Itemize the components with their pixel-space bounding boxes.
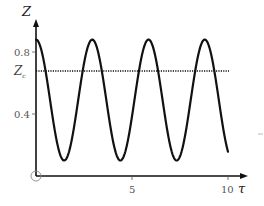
oscillation-chart: 0.8 0.4 5 10 Z τ Zc [0, 0, 264, 206]
zc-label: Zc [13, 64, 26, 79]
x-axis-label: τ [238, 181, 246, 196]
oscillation-curve [36, 40, 228, 161]
x-axis-arrow [240, 173, 248, 179]
y-tick-label-0.8: 0.8 [14, 47, 30, 58]
x-tick-label-10: 10 [221, 184, 234, 195]
y-tick-label-0.4: 0.4 [14, 109, 30, 120]
y-axis-label: Z [21, 4, 32, 19]
y-axis-arrow [33, 19, 39, 27]
x-tick-label-5: 5 [129, 184, 135, 195]
zc-label-sub: c [22, 72, 26, 79]
